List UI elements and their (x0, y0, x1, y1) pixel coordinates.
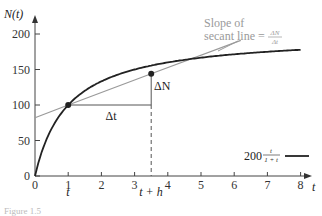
x-tick-label: 4 (165, 178, 171, 192)
legend: 200 t 1 + t (244, 147, 309, 164)
y-ticks: 050100150200 (12, 27, 40, 183)
secant-label-line2: secant line = (204, 29, 265, 43)
x-tick-label: 8 (298, 178, 304, 192)
y-tick-label: 50 (18, 134, 30, 148)
legend-frac-num: t (270, 147, 273, 155)
figure-caption: Figure 1.5 (4, 206, 41, 216)
y-tick-label: 200 (12, 27, 30, 41)
secant-label-line1: Slope of (204, 16, 244, 30)
secant-frac-den: Δt (271, 38, 279, 46)
x-tick-label: 5 (198, 178, 204, 192)
secant-frac-num: ΔN (270, 29, 280, 37)
chart-canvas: 050100150200 012345678 N(t) t Δt ΔN t t … (0, 0, 322, 216)
x-tick-label: 7 (264, 178, 270, 192)
delta-n-label: ΔN (154, 79, 171, 93)
point-t (65, 102, 71, 108)
x-ticks: 012345678 (32, 172, 304, 192)
y-axis-arrow-icon (32, 15, 38, 23)
x-tick-label: 6 (231, 178, 237, 192)
y-tick-label: 0 (24, 169, 30, 183)
delta-t-label: Δt (105, 109, 117, 123)
x-tick-label: 0 (32, 178, 38, 192)
legend-coefficient: 200 (244, 149, 262, 163)
x-tick-label: 2 (98, 178, 104, 192)
x-axis-title: t (312, 180, 316, 194)
legend-frac-den: 1 + t (264, 156, 279, 164)
point-t-plus-h (148, 71, 154, 77)
y-tick-label: 100 (12, 98, 30, 112)
t-plus-h-label: t + h (139, 185, 162, 199)
y-axis-title: N(t) (3, 7, 23, 21)
x-axis-arrow-icon (304, 173, 312, 179)
y-tick-label: 150 (12, 63, 30, 77)
x-tick-label: 3 (132, 178, 138, 192)
